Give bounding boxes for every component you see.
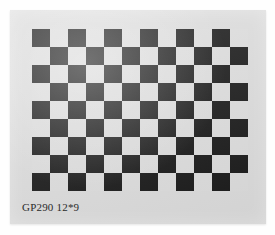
checker-cell bbox=[194, 65, 212, 83]
checker-cell bbox=[140, 119, 158, 137]
checker-cell bbox=[212, 155, 230, 173]
checker-cell bbox=[140, 29, 158, 47]
checker-cell bbox=[230, 101, 248, 119]
calibration-target-card: GP290 12*9 bbox=[10, 10, 266, 224]
checker-cell bbox=[140, 65, 158, 83]
checker-cell bbox=[230, 83, 248, 101]
checker-cell bbox=[86, 83, 104, 101]
checker-cell bbox=[158, 155, 176, 173]
checker-cell bbox=[68, 47, 86, 65]
checker-cell bbox=[32, 47, 50, 65]
checker-cell bbox=[68, 155, 86, 173]
checker-cell bbox=[230, 29, 248, 47]
checker-cell bbox=[50, 137, 68, 155]
checker-cell bbox=[176, 101, 194, 119]
checker-cell bbox=[50, 119, 68, 137]
checker-cell bbox=[194, 29, 212, 47]
checker-cell bbox=[176, 29, 194, 47]
checker-cell bbox=[68, 137, 86, 155]
checker-cell bbox=[194, 155, 212, 173]
page-root: GP290 12*9 bbox=[0, 0, 275, 235]
checker-cell bbox=[104, 29, 122, 47]
checker-cell bbox=[194, 47, 212, 65]
checker-cell bbox=[176, 119, 194, 137]
checker-cell bbox=[50, 173, 68, 191]
checker-cell bbox=[158, 47, 176, 65]
checker-cell bbox=[230, 137, 248, 155]
checker-cell bbox=[104, 137, 122, 155]
checker-cell bbox=[50, 47, 68, 65]
checker-cell bbox=[86, 155, 104, 173]
checker-cell bbox=[122, 137, 140, 155]
checker-cell bbox=[230, 173, 248, 191]
checker-cell bbox=[176, 65, 194, 83]
checker-cell bbox=[32, 83, 50, 101]
checker-cell bbox=[140, 101, 158, 119]
checker-cell bbox=[122, 47, 140, 65]
checker-cell bbox=[212, 47, 230, 65]
checker-cell bbox=[212, 101, 230, 119]
checker-cell bbox=[86, 137, 104, 155]
checker-cell bbox=[122, 65, 140, 83]
checker-cell bbox=[50, 101, 68, 119]
checker-cell bbox=[32, 29, 50, 47]
checker-cell bbox=[122, 155, 140, 173]
checker-cell bbox=[176, 83, 194, 101]
checker-cell bbox=[140, 173, 158, 191]
checker-cell bbox=[158, 137, 176, 155]
checker-cell bbox=[32, 173, 50, 191]
checker-cell bbox=[230, 47, 248, 65]
checker-cell bbox=[212, 119, 230, 137]
checker-cell bbox=[32, 65, 50, 83]
checker-cell bbox=[68, 119, 86, 137]
checker-cell bbox=[86, 119, 104, 137]
checker-cell bbox=[140, 83, 158, 101]
checkerboard-grid bbox=[32, 29, 248, 191]
checker-cell bbox=[68, 29, 86, 47]
checker-cell bbox=[104, 47, 122, 65]
checker-cell bbox=[122, 173, 140, 191]
checker-cell bbox=[86, 47, 104, 65]
checker-cell bbox=[122, 101, 140, 119]
checker-cell bbox=[212, 29, 230, 47]
checker-cell bbox=[212, 173, 230, 191]
checker-cell bbox=[212, 65, 230, 83]
checker-cell bbox=[50, 65, 68, 83]
checker-cell bbox=[176, 155, 194, 173]
checker-cell bbox=[212, 83, 230, 101]
checker-cell bbox=[122, 83, 140, 101]
checker-cell bbox=[32, 137, 50, 155]
checker-cell bbox=[68, 173, 86, 191]
checker-cell bbox=[104, 83, 122, 101]
checker-cell bbox=[158, 65, 176, 83]
checker-cell bbox=[194, 83, 212, 101]
checker-cell bbox=[86, 65, 104, 83]
checker-cell bbox=[50, 83, 68, 101]
checker-cell bbox=[122, 119, 140, 137]
checker-cell bbox=[176, 173, 194, 191]
checker-cell bbox=[212, 137, 230, 155]
checker-cell bbox=[32, 155, 50, 173]
checker-cell bbox=[104, 119, 122, 137]
checker-cell bbox=[104, 173, 122, 191]
checker-cell bbox=[194, 101, 212, 119]
checker-cell bbox=[230, 119, 248, 137]
checker-cell bbox=[140, 155, 158, 173]
checker-cell bbox=[176, 47, 194, 65]
checker-cell bbox=[158, 83, 176, 101]
checker-cell bbox=[104, 155, 122, 173]
checker-cell bbox=[158, 29, 176, 47]
checker-cell bbox=[68, 83, 86, 101]
checker-cell bbox=[158, 101, 176, 119]
checker-cell bbox=[230, 65, 248, 83]
checker-cell bbox=[230, 155, 248, 173]
checker-cell bbox=[86, 173, 104, 191]
calibration-pattern-label: GP290 12*9 bbox=[22, 202, 79, 213]
checker-cell bbox=[158, 119, 176, 137]
checker-cell bbox=[32, 101, 50, 119]
checker-cell bbox=[50, 155, 68, 173]
checker-cell bbox=[194, 119, 212, 137]
checker-cell bbox=[104, 101, 122, 119]
checker-cell bbox=[68, 101, 86, 119]
checker-cell bbox=[176, 137, 194, 155]
